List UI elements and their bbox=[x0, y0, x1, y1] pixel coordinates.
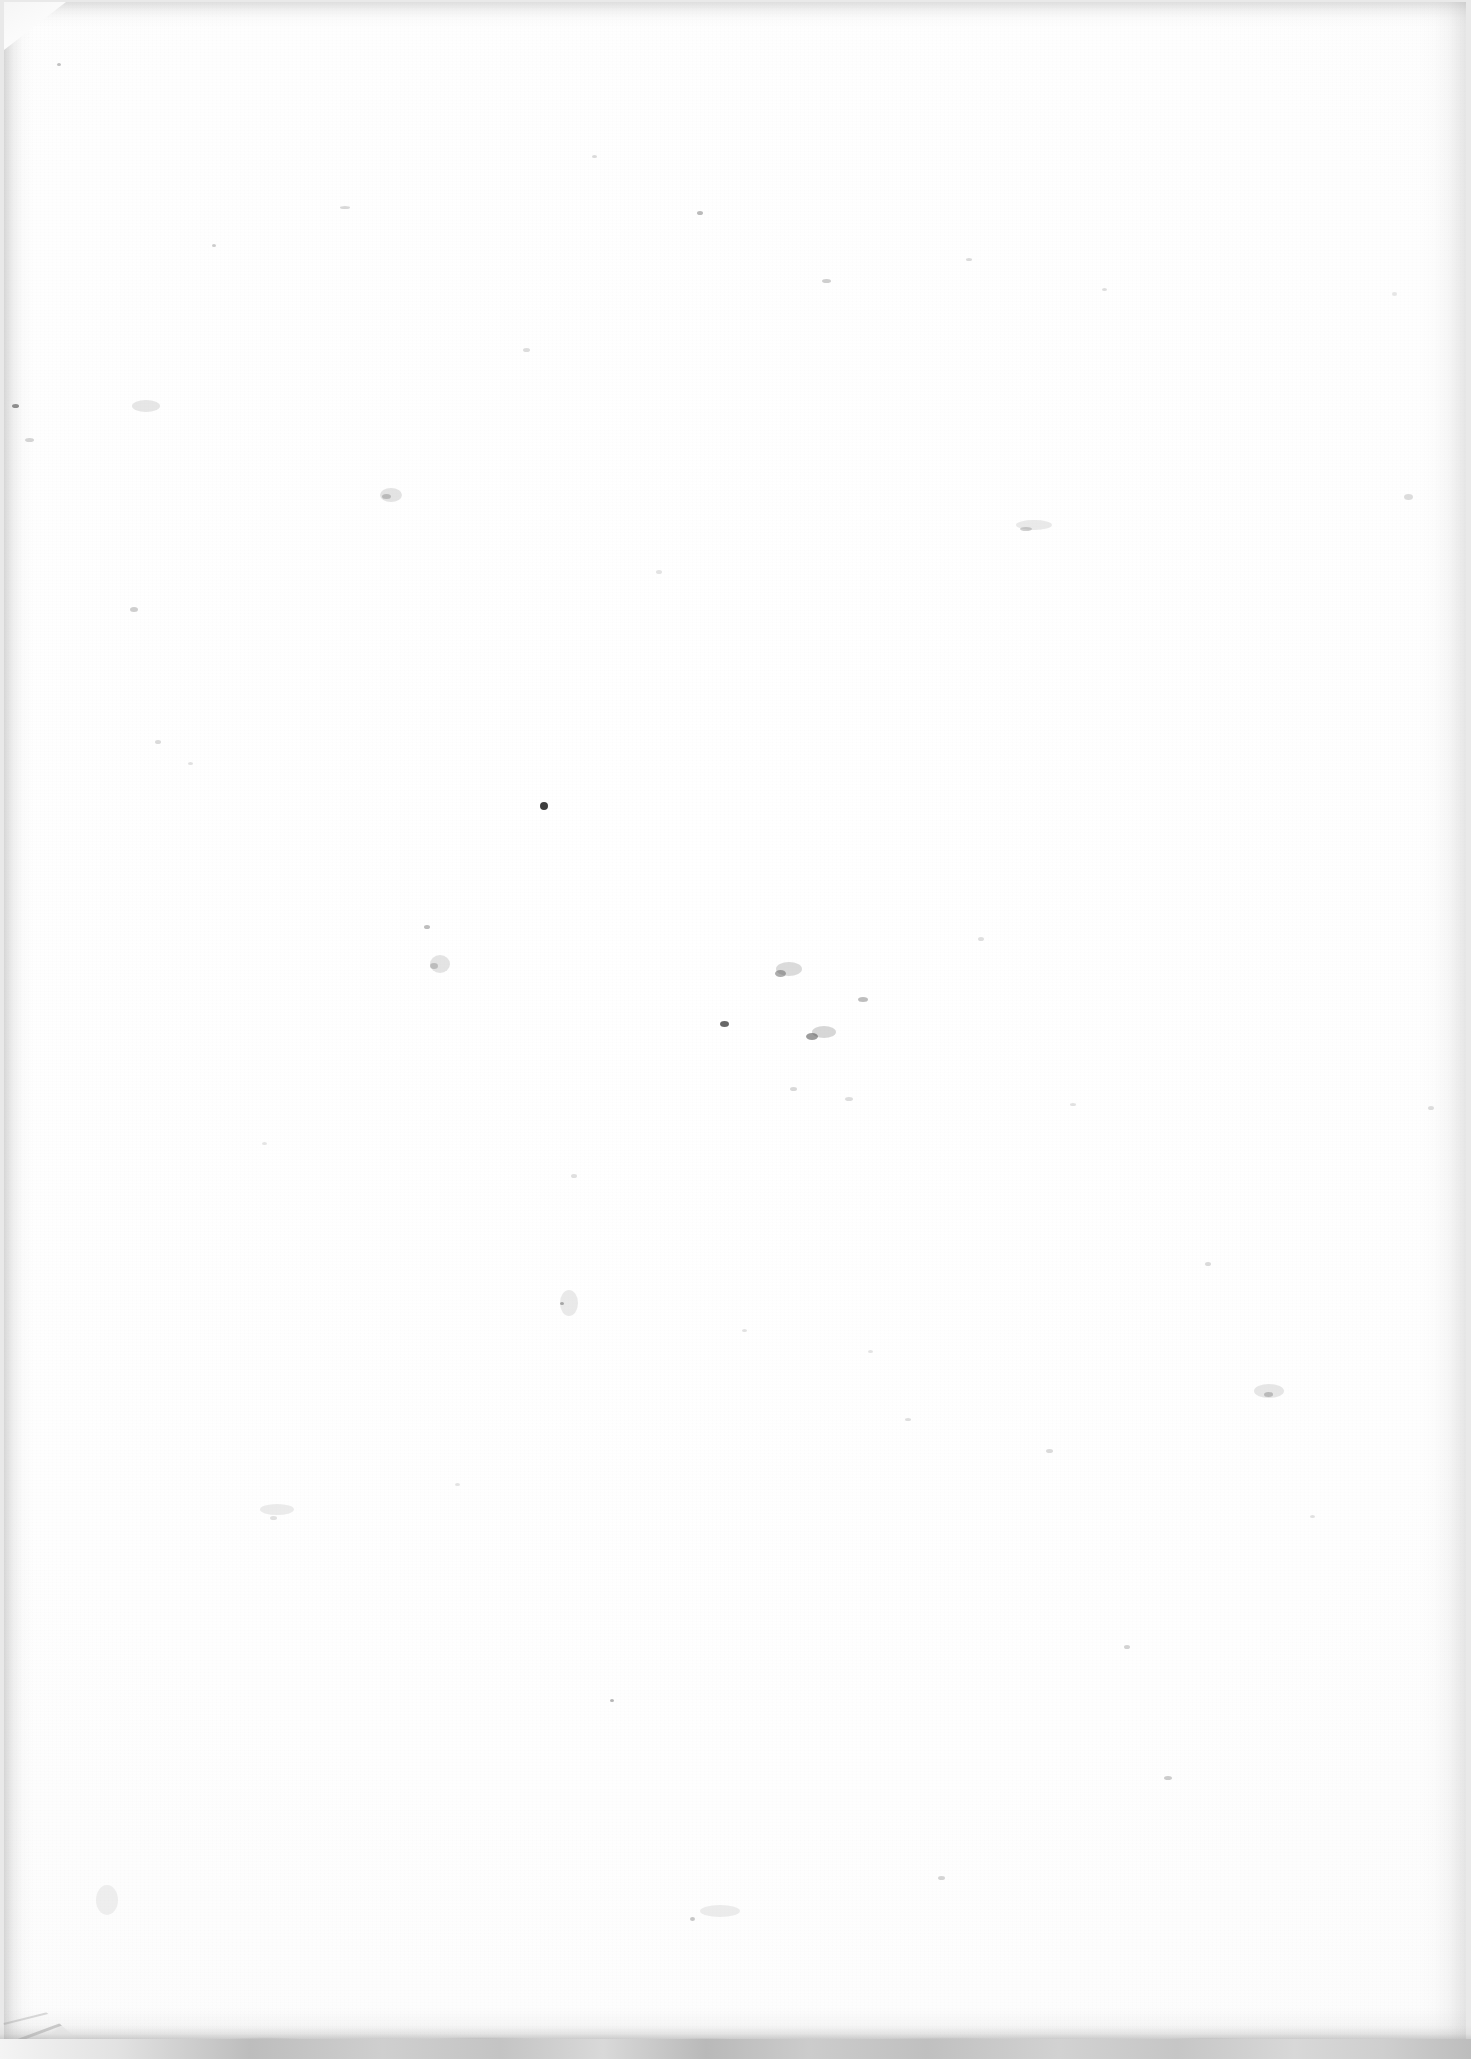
paper-grain-texture bbox=[4, 2, 1466, 2042]
paper-smudge bbox=[132, 400, 160, 412]
dust-speck bbox=[382, 494, 391, 499]
dust-speck bbox=[1428, 1106, 1434, 1110]
dust-speck bbox=[697, 211, 703, 215]
folded-corner-top-left-icon bbox=[4, 2, 66, 50]
dust-speck bbox=[938, 1876, 945, 1880]
dust-speck bbox=[1264, 1392, 1273, 1397]
dust-speck bbox=[57, 63, 61, 66]
dust-speck bbox=[742, 1329, 747, 1332]
dust-speck bbox=[560, 1302, 564, 1305]
dust-speck bbox=[212, 244, 216, 247]
paper-sheet bbox=[4, 2, 1466, 2042]
dust-speck bbox=[340, 206, 350, 209]
dust-speck bbox=[455, 1483, 460, 1486]
dust-speck bbox=[1070, 1103, 1076, 1106]
dust-speck bbox=[540, 802, 548, 810]
dust-speck bbox=[690, 1917, 695, 1921]
right-edge-shadow bbox=[1420, 2, 1466, 2042]
dust-speck bbox=[262, 1142, 267, 1145]
paper-smudge bbox=[560, 1290, 578, 1316]
dust-speck bbox=[905, 1418, 911, 1421]
paper-smudge bbox=[812, 1026, 836, 1038]
dust-speck bbox=[155, 740, 161, 744]
dust-speck bbox=[1404, 494, 1413, 500]
dust-speck bbox=[868, 1350, 873, 1353]
dust-speck bbox=[966, 258, 972, 261]
dust-speck bbox=[1020, 527, 1032, 531]
dust-speck bbox=[270, 1516, 277, 1520]
paper-smudge bbox=[1254, 1384, 1284, 1398]
fold-crease-line bbox=[6, 0, 96, 50]
dust-speck bbox=[806, 1033, 818, 1040]
left-edge-shadow bbox=[4, 2, 34, 2042]
dust-speck bbox=[424, 925, 430, 929]
dust-speck bbox=[1102, 288, 1107, 291]
scanned-page-canvas bbox=[0, 0, 1471, 2059]
dust-speck bbox=[1205, 1262, 1211, 1266]
dust-speck bbox=[130, 607, 138, 612]
dust-speck bbox=[1046, 1449, 1053, 1453]
paper-smudge bbox=[700, 1905, 740, 1917]
dust-speck bbox=[430, 963, 438, 969]
dust-speck bbox=[523, 348, 530, 352]
dust-speck bbox=[12, 404, 19, 408]
paper-smudge bbox=[96, 1885, 118, 1915]
dust-speck bbox=[610, 1699, 614, 1702]
dust-speck bbox=[571, 1174, 577, 1178]
paper-smudge bbox=[1016, 520, 1052, 530]
dust-speck bbox=[188, 762, 193, 765]
dust-speck bbox=[1164, 1776, 1172, 1780]
dust-speck bbox=[775, 970, 786, 977]
dust-speck bbox=[720, 1021, 729, 1027]
dust-speck bbox=[978, 937, 984, 941]
dust-speck bbox=[845, 1097, 853, 1101]
dust-speck bbox=[656, 570, 662, 574]
paper-smudge bbox=[380, 488, 402, 502]
dust-speck bbox=[790, 1087, 797, 1091]
dust-speck bbox=[25, 438, 34, 442]
dust-speck bbox=[822, 279, 831, 283]
bottom-scanner-band bbox=[0, 2039, 1471, 2059]
paper-smudge bbox=[260, 1504, 294, 1515]
dust-speck bbox=[858, 997, 868, 1002]
top-edge-shadow bbox=[4, 2, 1466, 28]
dust-speck bbox=[1392, 292, 1397, 296]
dust-speck bbox=[592, 155, 597, 158]
dust-speck bbox=[1310, 1515, 1315, 1518]
paper-smudge bbox=[430, 955, 450, 973]
paper-smudge bbox=[776, 962, 802, 976]
dust-speck bbox=[1124, 1645, 1130, 1649]
